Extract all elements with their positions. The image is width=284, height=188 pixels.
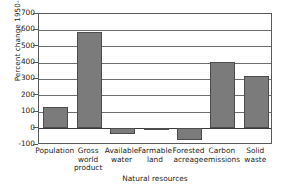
y-tick-label-700: 700 [9, 9, 35, 16]
bar-gross-world-product [77, 32, 102, 128]
y-tick-mark--100 [33, 144, 38, 145]
bar-available-water [110, 128, 135, 134]
y-tick-label-600: 600 [9, 25, 35, 32]
bar-farmable-land [144, 128, 169, 130]
plot-area [38, 13, 272, 144]
bar-population [43, 107, 68, 128]
x-label-line: product [64, 164, 112, 173]
x-label-line: waste [231, 156, 279, 165]
x-label-solid-waste: Solidwaste [231, 147, 279, 164]
bar-solid-waste [244, 76, 269, 128]
y-tick-label-400: 400 [9, 58, 35, 65]
bracket-label: Natural resources [109, 175, 201, 183]
gridline-100 [39, 112, 271, 113]
y-tick-label-200: 200 [9, 91, 35, 98]
gridline-600 [39, 30, 271, 31]
gridline-200 [39, 95, 271, 96]
gridline-400 [39, 63, 271, 64]
y-tick-label-500: 500 [9, 42, 35, 49]
bar-forested-acreage [177, 128, 202, 139]
natural-resources-bracket: Natural resources [109, 175, 201, 182]
gridline-500 [39, 46, 271, 47]
chart-figure: Percent change 1950-2000 700600500400300… [0, 0, 284, 188]
y-tick-label-0: 0 [9, 124, 35, 131]
gridline-300 [39, 79, 271, 80]
bar-carbon-emissions [210, 62, 235, 128]
y-tick-label-300: 300 [9, 74, 35, 81]
y-tick-label-100: 100 [9, 107, 35, 114]
